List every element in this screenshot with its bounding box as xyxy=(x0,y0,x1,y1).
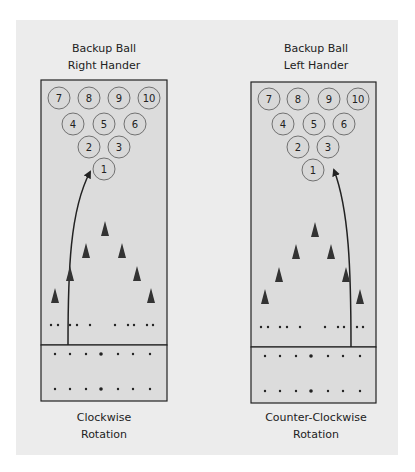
svg-text:3: 3 xyxy=(116,142,122,153)
svg-text:5: 5 xyxy=(101,119,107,130)
svg-text:7: 7 xyxy=(56,93,62,104)
svg-text:1: 1 xyxy=(310,165,316,176)
left-lane: 78910 456 23 1 xyxy=(41,80,167,401)
svg-text:4: 4 xyxy=(70,119,76,130)
svg-text:2: 2 xyxy=(295,142,301,153)
svg-text:8: 8 xyxy=(86,93,92,104)
svg-text:3: 3 xyxy=(325,142,331,153)
svg-text:9: 9 xyxy=(326,94,332,105)
svg-text:9: 9 xyxy=(116,93,122,104)
svg-text:2: 2 xyxy=(86,142,92,153)
lane-diagrams: 78910 456 23 1 xyxy=(0,0,415,472)
svg-text:4: 4 xyxy=(280,119,286,130)
svg-text:1: 1 xyxy=(101,164,107,175)
svg-text:5: 5 xyxy=(311,119,317,130)
svg-text:7: 7 xyxy=(266,94,272,105)
svg-text:10: 10 xyxy=(143,93,156,104)
svg-text:8: 8 xyxy=(295,94,301,105)
svg-text:6: 6 xyxy=(132,119,138,130)
svg-text:10: 10 xyxy=(352,94,365,105)
svg-text:6: 6 xyxy=(341,119,347,130)
right-lane: 78910 456 23 1 xyxy=(251,82,376,403)
